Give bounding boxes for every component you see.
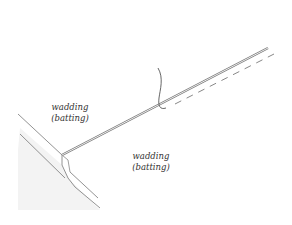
label-right-line2: (batting) (126, 162, 176, 173)
label-right-line1: wadding (126, 151, 176, 162)
quilting-diagram (0, 0, 292, 225)
label-left-line1: wadding (45, 102, 95, 113)
stitch-line-dashed (175, 54, 274, 104)
label-left-wadding: wadding (batting) (45, 102, 95, 124)
label-left-line2: (batting) (45, 113, 95, 124)
label-right-wadding: wadding (batting) (126, 151, 176, 173)
